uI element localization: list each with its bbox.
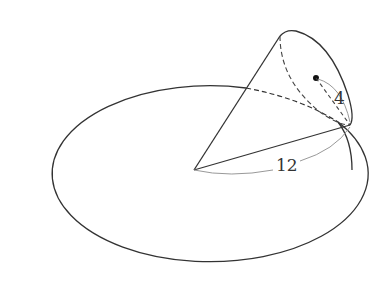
cone-edge-upper [194,36,280,170]
ground-circle-hidden [246,88,338,122]
slant-dimension-arc-left [194,170,273,174]
base-radius-label: 4 [334,88,345,108]
cone-edge-lower [194,125,350,170]
cone-diagram: 12 4 [0,0,375,287]
slant-height-label: 12 [276,155,298,175]
ground-circle-right [338,122,352,170]
diagram-canvas: 12 4 [0,0,375,287]
